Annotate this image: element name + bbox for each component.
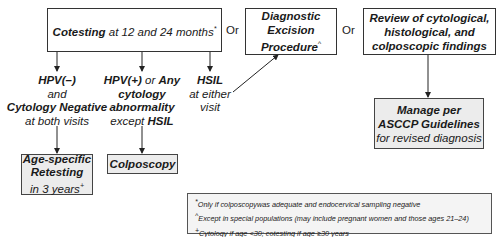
branch-text: Any — [158, 74, 180, 86]
branch-line: at either — [188, 88, 232, 102]
or-label-2: Or — [342, 24, 355, 36]
footnote-mark: ^ — [318, 40, 321, 47]
footnote-1: *Only if colposcopywas adequate and endo… — [195, 196, 491, 210]
footnote-text: Only if colposcopywas adequate and endoc… — [198, 200, 421, 209]
retesting-box: Age-specific Retesting in 3 years+ — [21, 154, 93, 195]
manage-line: ASCCP Guidelines — [378, 117, 480, 131]
branch-text: except — [110, 115, 147, 127]
manage-line: Manage per — [397, 103, 461, 117]
retesting-line: in 3 years — [30, 183, 80, 195]
review-line: Review of cytological, — [369, 11, 489, 25]
diagnostic-line: Diagnostic — [262, 9, 321, 23]
footnote-2: ^Except in special populations (may incl… — [195, 210, 491, 224]
cotesting-label: Cotesting — [53, 25, 106, 37]
review-findings-box: Review of cytological, histological, and… — [363, 8, 496, 55]
diagnostic-line: Excision — [267, 23, 314, 37]
branch-text: HSIL — [147, 115, 173, 127]
branch-line: HPV(–) — [5, 74, 109, 88]
footnote-3: +Cytology if age <30; cotesting if age ≥… — [195, 225, 491, 237]
branch-line: HSIL — [188, 74, 232, 88]
branch-hpv-negative: HPV(–) and Cytology Negative at both vis… — [5, 74, 109, 128]
diagnostic-excision-box: Diagnostic Excision Procedure^ — [245, 8, 337, 55]
footnotes-box: *Only if colposcopywas adequate and endo… — [187, 193, 492, 234]
branch-line: abnormality — [103, 101, 181, 115]
footnote-mark: + — [80, 182, 84, 189]
branch-line: at both visits — [5, 115, 109, 129]
cotesting-box: Cotesting at 12 and 24 months* — [47, 8, 222, 52]
manage-guidelines-box: Manage per ASCCP Guidelines for revised … — [374, 98, 484, 149]
diagnostic-line: Procedure — [261, 41, 318, 53]
footnote-mark: * — [214, 25, 217, 32]
retesting-line: Retesting — [31, 166, 83, 179]
colposcopy-label: Colposcopy — [110, 157, 176, 171]
branch-hpv-positive: HPV(+) or Any cytology abnormality excep… — [103, 74, 181, 128]
branch-line: visit — [188, 101, 232, 115]
branch-line: Cytology Negative — [5, 101, 109, 115]
manage-line: for revised diagnosis — [376, 131, 481, 145]
colposcopy-box: Colposcopy — [107, 154, 178, 174]
branch-line: and — [5, 88, 109, 102]
or-label-1: Or — [226, 24, 239, 36]
branch-text: HPV(+) — [104, 74, 142, 86]
footnote-text: Cytology if age <30; cotesting if age ≥3… — [199, 229, 349, 237]
retesting-line: Age-specific — [23, 153, 91, 166]
review-line: histological, and — [384, 25, 475, 39]
review-line: colposcopic findings — [372, 39, 487, 53]
footnote-text: Except in special populations (may inclu… — [198, 215, 469, 224]
branch-line: cytology — [103, 88, 181, 102]
cotesting-detail: at 12 and 24 months — [106, 25, 214, 37]
branch-text: or — [142, 74, 159, 86]
branch-hsil: HSIL at either visit — [188, 74, 232, 115]
